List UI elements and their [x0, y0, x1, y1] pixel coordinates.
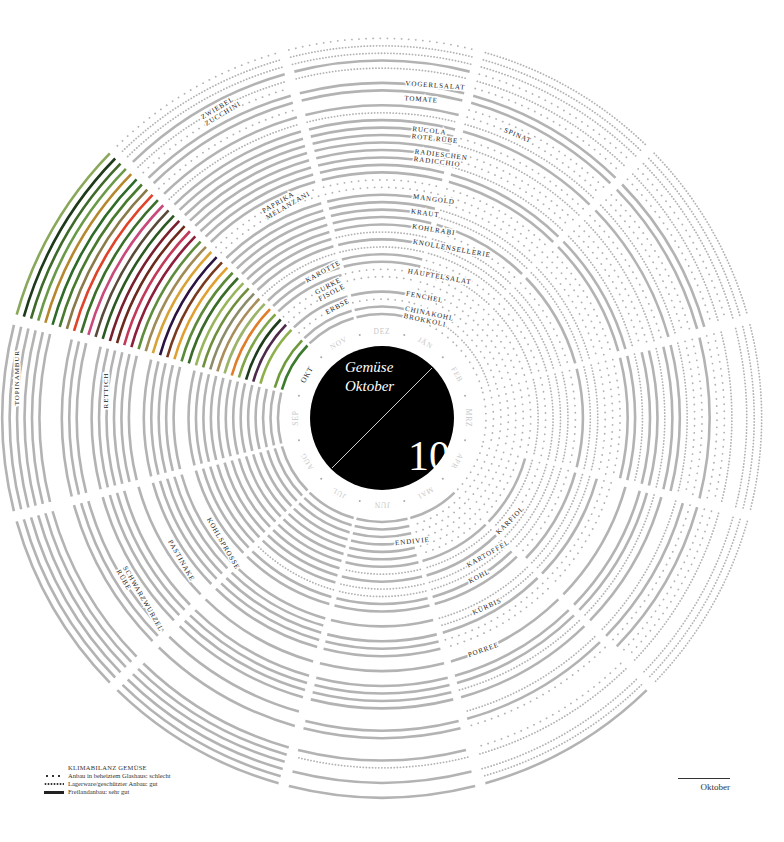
month-segment	[203, 374, 208, 462]
month-segment	[736, 329, 747, 508]
month-segment	[478, 325, 511, 382]
vegetable-label: SPINAT	[503, 126, 533, 145]
month-segment	[483, 60, 641, 151]
month-segment	[512, 385, 516, 451]
legend-label: Lagerware/geschützter Anbau: gut	[68, 780, 158, 788]
month-separator-dot	[464, 439, 466, 441]
month-segment	[325, 642, 438, 649]
month-segment	[123, 60, 281, 151]
month-segment	[24, 519, 115, 677]
radial-vegetable-calendar: JÄNFEBMRZAPRMAIJUNJULAUGSEPOKTNOVDEZ CHI…	[0, 0, 784, 842]
month-segment	[340, 247, 424, 252]
month-segment	[473, 96, 615, 178]
month-segment	[342, 254, 422, 259]
month-segment	[275, 448, 302, 495]
month-segment	[331, 620, 433, 626]
month-segment	[526, 473, 575, 558]
legend-label: Anbau in beheiztem Glashaus: schlecht	[68, 772, 171, 780]
month-segment	[151, 361, 158, 474]
month-segment	[526, 382, 531, 455]
month-segment	[574, 491, 640, 605]
month-segment	[322, 172, 442, 180]
month-segment	[248, 385, 252, 451]
vegetable-label: ENDIVIE	[395, 536, 430, 548]
month-label-nov: NOV	[328, 334, 349, 351]
month-segment	[620, 358, 628, 478]
month-segment	[77, 343, 86, 493]
sparse-dot-swatch-icon	[44, 772, 64, 780]
vegetable-label: KOHLRABI	[412, 223, 456, 238]
month-segment	[278, 392, 281, 443]
month-segment	[455, 160, 569, 226]
month-separator-dot	[298, 439, 300, 441]
month-segment	[340, 584, 424, 589]
month-segment	[351, 292, 413, 296]
month-segment	[649, 159, 740, 317]
legend-item-solid: Freilandanbau: sehr gut	[44, 788, 171, 796]
month-segment	[293, 772, 472, 783]
vegetable-label: TOPINAMBUR	[13, 350, 21, 405]
month-segment	[449, 182, 553, 242]
month-segment	[309, 493, 353, 519]
month-segment	[335, 605, 430, 611]
month-segment	[477, 81, 626, 167]
month-segment	[189, 371, 195, 466]
legend: KLIMABILANZ GEMÜSE Anbau in beheiztem Gl…	[44, 764, 171, 796]
month-segment	[555, 374, 560, 462]
month-segment	[490, 391, 493, 446]
dense-dot-swatch-icon	[44, 780, 64, 788]
month-segment	[241, 383, 245, 452]
month-segment	[342, 577, 422, 582]
month-segment	[483, 685, 641, 776]
month-segment	[743, 327, 754, 510]
vegetable-label: KRAUT	[410, 207, 439, 219]
vegetable-label: RETTICH	[102, 373, 110, 409]
month-segment	[289, 38, 475, 50]
month-segment	[414, 503, 465, 532]
month-segment	[324, 180, 441, 187]
month-segment	[497, 389, 501, 447]
month-segment	[622, 184, 704, 326]
month-segment	[548, 376, 553, 460]
month-segment	[515, 288, 561, 367]
month-segment	[410, 493, 454, 519]
month-segment	[349, 548, 415, 552]
month-segment	[159, 363, 166, 473]
month-segment	[296, 68, 468, 79]
month-segment	[320, 663, 444, 671]
month-segment	[590, 497, 661, 620]
month-segment	[344, 262, 421, 267]
month-separator-dot	[403, 334, 405, 336]
legend-item-sparse: Anbau in beheiztem Glashaus: schlecht	[44, 772, 171, 780]
month-segment	[562, 372, 568, 463]
month-segment	[304, 498, 351, 525]
month-segment	[123, 685, 281, 776]
month-label-jun: JUN	[374, 500, 390, 509]
month-segment	[327, 634, 437, 641]
month-segment	[353, 299, 411, 303]
month-segment	[663, 347, 672, 489]
month-segment	[32, 332, 43, 504]
month-segment	[294, 61, 469, 72]
month-segment	[519, 383, 523, 452]
month-segment	[577, 369, 583, 468]
month-segment	[218, 378, 223, 458]
month-segment	[750, 325, 762, 511]
month-segment	[707, 336, 717, 500]
month-segment	[305, 721, 458, 731]
month-segment	[353, 533, 411, 537]
month-segment	[584, 367, 590, 469]
month-segment	[569, 371, 575, 466]
month-segment	[504, 387, 508, 449]
month-segment	[233, 382, 238, 455]
month-segment	[574, 231, 640, 345]
legend-label: Freilandanbau: sehr gut	[68, 788, 129, 796]
month-segment	[346, 562, 419, 567]
center-month-number: 10	[408, 433, 450, 479]
month-segment	[305, 105, 458, 115]
month-segment	[302, 91, 463, 101]
month-segment	[356, 314, 407, 317]
month-segment	[613, 360, 620, 477]
month-segment	[196, 372, 202, 463]
month-segment	[336, 598, 427, 604]
